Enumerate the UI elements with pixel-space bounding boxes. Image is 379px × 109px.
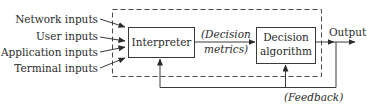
network-inputs-label: Network inputs — [15, 14, 98, 25]
feedback-label: (Feedback) — [284, 92, 343, 103]
terminal-inputs-label: Terminal inputs — [14, 63, 98, 74]
decision-metrics-label-line2: metrics) — [204, 44, 248, 55]
user-inputs-label: User inputs — [36, 31, 98, 42]
decision-algorithm-label-line1: Decision — [256, 32, 316, 43]
decision-algorithm-label-line2: algorithm — [256, 46, 316, 57]
application-inputs-label: Application inputs — [1, 47, 98, 58]
decision-system-diagram: Network inputs User inputs Application i… — [0, 0, 379, 109]
output-label: Output — [329, 27, 366, 38]
network-input-arrow — [100, 19, 125, 27]
decision-metrics-label-line1: (Decision — [201, 29, 251, 40]
interpreter-label: Interpreter — [128, 37, 195, 48]
terminal-input-arrow — [100, 58, 125, 68]
